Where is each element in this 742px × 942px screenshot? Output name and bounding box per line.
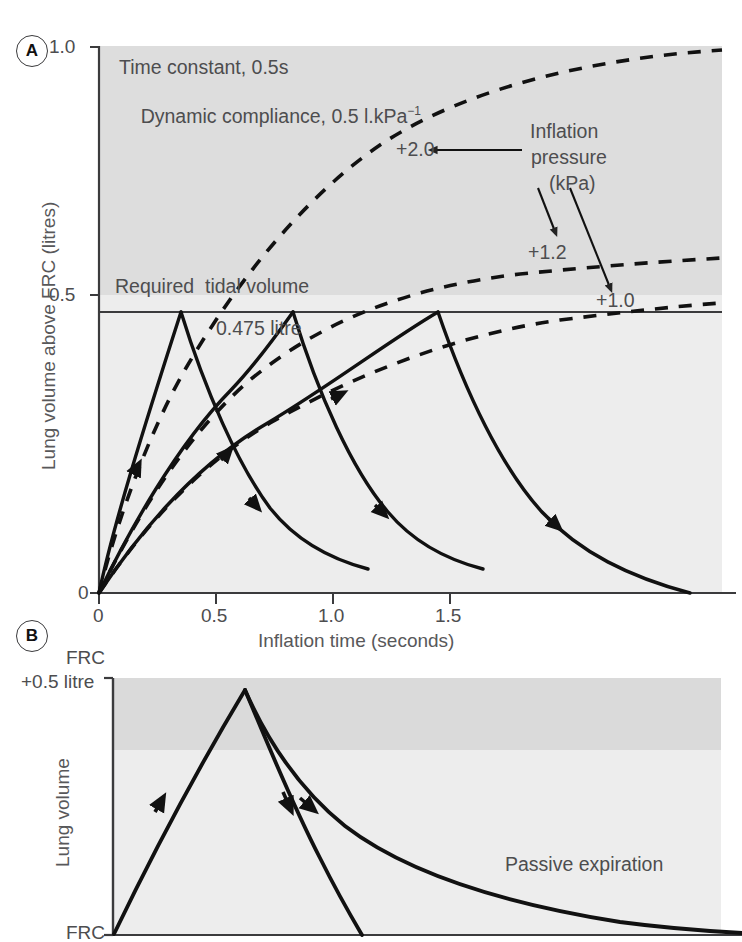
annotation-required-tidal-volume: Required tidal volume: [115, 276, 309, 298]
panel-a-xtick-1-0: 1.0: [318, 605, 344, 626]
annotation-dynamic-compliance-exponent: −1: [407, 104, 421, 118]
legend-inflation-pressure-line2: pressure: [531, 147, 607, 169]
panel-a-xtick-0-5: 0.5: [201, 605, 227, 626]
curve-label-plus-1-2: +1.2: [528, 242, 567, 264]
annotation-dynamic-compliance: Dynamic compliance, 0.5 l.kPa−1: [119, 83, 421, 149]
panel-a-y-axis-label: Lung volume above FRC (litres): [38, 202, 59, 470]
panel-b-y-axis-label: Lung volume: [52, 758, 73, 867]
curve-label-plus-1-0: +1.0: [596, 290, 635, 312]
panel-a-ytick-0: 0: [78, 582, 89, 603]
panel-a-xtick-0: 0: [93, 605, 104, 626]
curve-label-plus-2-0: +2.0: [396, 139, 435, 161]
panel-b-ytick-top-line2: +0.5 litre: [21, 671, 94, 692]
annotation-time-constant: Time constant, 0.5s: [119, 57, 288, 79]
panel-label-b: B: [16, 620, 48, 652]
annotation-passive-expiration: Passive expiration: [505, 854, 663, 876]
annotation-dynamic-compliance-text: Dynamic compliance, 0.5 l.kPa: [141, 104, 408, 126]
annotation-tidal-volume-value: 0.475 litre: [216, 318, 302, 340]
panel-a-x-axis-label: Inflation time (seconds): [258, 630, 454, 651]
panel-b-ytick-top-line1: FRC: [66, 647, 105, 668]
panel-a-ytick-1-0: 1.0: [49, 36, 75, 57]
panel-label-a: A: [16, 35, 48, 67]
figure-root: A B 1.0 0.5 0 0 0.5 1.0 1.5 Lung volume …: [0, 0, 742, 942]
panel-b-ytick-bottom: FRC: [66, 922, 105, 942]
panel-b-plot-bands: [113, 678, 721, 935]
panel-a-xtick-1-5: 1.5: [435, 605, 461, 626]
legend-inflation-pressure-line3: (kPa): [549, 173, 596, 195]
legend-inflation-pressure-line1: Inflation: [530, 121, 598, 143]
